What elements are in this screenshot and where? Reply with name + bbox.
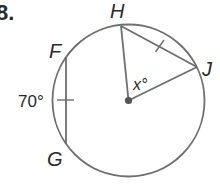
problem-number: 8. xyxy=(0,0,14,25)
circle-diagram: 8. F G H J 70° x° xyxy=(0,0,220,187)
label-h: H xyxy=(110,0,125,22)
angle-x-label: x° xyxy=(132,76,148,93)
radius-h xyxy=(121,26,129,101)
label-f: F xyxy=(49,40,63,62)
center-point xyxy=(125,97,132,104)
arc-measure-label: 70° xyxy=(18,92,44,111)
label-j: J xyxy=(201,58,213,80)
label-g: G xyxy=(47,148,63,170)
